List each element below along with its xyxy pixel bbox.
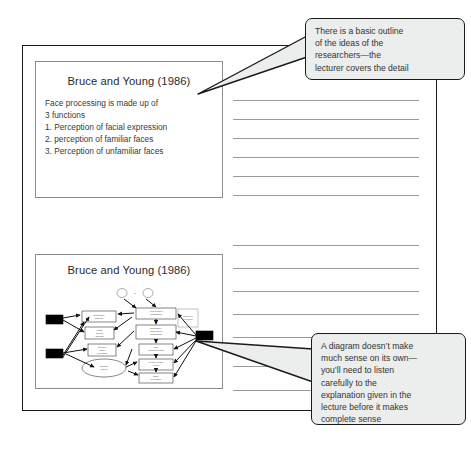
svg-text:recognition units: recognition units [148,349,165,351]
callout-bubble-1: There is a basic outline of the ideas of… [305,18,465,80]
callout-1-line: There is a basic outline [315,25,456,37]
svg-text:Expression: Expression [94,314,106,316]
slide-1-body-line: 1. Perception of facial expression [45,121,222,133]
svg-text:processing: processing [97,352,108,354]
svg-text:encoding: encoding [184,318,194,320]
svg-text:Name: Name [153,375,160,377]
slide-1-body-line: 2. perception of familiar faces [45,133,222,145]
svg-text:Structural: Structural [183,315,193,317]
callout-2-line: explanation given in the [321,389,457,401]
svg-text:visual: visual [99,349,105,351]
slide-1-body: Face processing is made up of 3 function… [45,97,222,157]
note-rule-line [233,245,419,246]
callout-2-line: much sense on its own— [321,352,457,364]
svg-text:speech: speech [96,332,104,334]
callout-2-line: carefully to the [321,377,457,389]
note-rule-line [233,176,419,177]
svg-text:nodes: nodes [153,364,160,366]
face-recognition-diagram: or Expression analysis Facial speech ana… [44,287,216,384]
callout-2-line: complete sense [321,413,457,425]
callout-2-line: A diagram doesn’t make [321,340,457,352]
svg-text:descriptions: descriptions [150,333,163,335]
note-rule-line [233,291,419,292]
callout-2-text: A diagram doesn’t make much sense on its… [312,334,465,431]
svg-text:generation: generation [151,378,162,380]
callout-1-line: of the ideas of the [315,37,456,49]
callout-1-text: There is a basic outline of the ideas of… [306,19,464,80]
svg-text:descriptions: descriptions [150,313,163,315]
callout-1-line: lecturer covers the detail [315,62,456,74]
svg-text:or: or [134,292,136,295]
callout-2-line: lecture before it makes [321,401,457,413]
note-rule-line [233,314,419,315]
slide-1-title: Bruce and Young (1986) [36,75,222,87]
callout-bubble-2: A diagram doesn’t make much sense on its… [311,333,466,425]
svg-text:analysis: analysis [96,335,105,337]
svg-text:analysis: analysis [95,317,104,319]
slide-handout-2: Bruce and Young (1986) or Expression ana… [35,254,223,389]
note-rule-line [233,268,419,269]
svg-text:Facial: Facial [97,329,103,331]
svg-text:Person identity: Person identity [149,361,164,363]
slide-handout-1: Bruce and Young (1986) Face processing i… [35,61,223,198]
svg-text:independent: independent [150,330,162,332]
callout-1-line: researchers—the [315,49,456,61]
svg-text:system: system [101,368,108,370]
slide-2-title: Bruce and Young (1986) [36,264,222,276]
note-rule-line [233,195,419,196]
slide-1-body-line: Face processing is made up of [45,97,222,109]
svg-text:Directed: Directed [98,346,107,348]
slide-1-body-line: 3 functions [45,109,222,121]
note-rule-line [233,100,419,101]
svg-text:Expression-: Expression- [150,327,162,329]
svg-text:Face: Face [154,346,160,348]
callout-2-line: you’ll need to listen [321,364,457,376]
note-rule-line [233,119,419,120]
slide-1-body-line: 3. Perception of unfamiliar faces [45,145,222,157]
svg-text:Cognitive: Cognitive [99,365,109,367]
note-rule-line [233,157,419,158]
note-rule-line [233,138,419,139]
svg-text:View-centred: View-centred [150,310,164,312]
